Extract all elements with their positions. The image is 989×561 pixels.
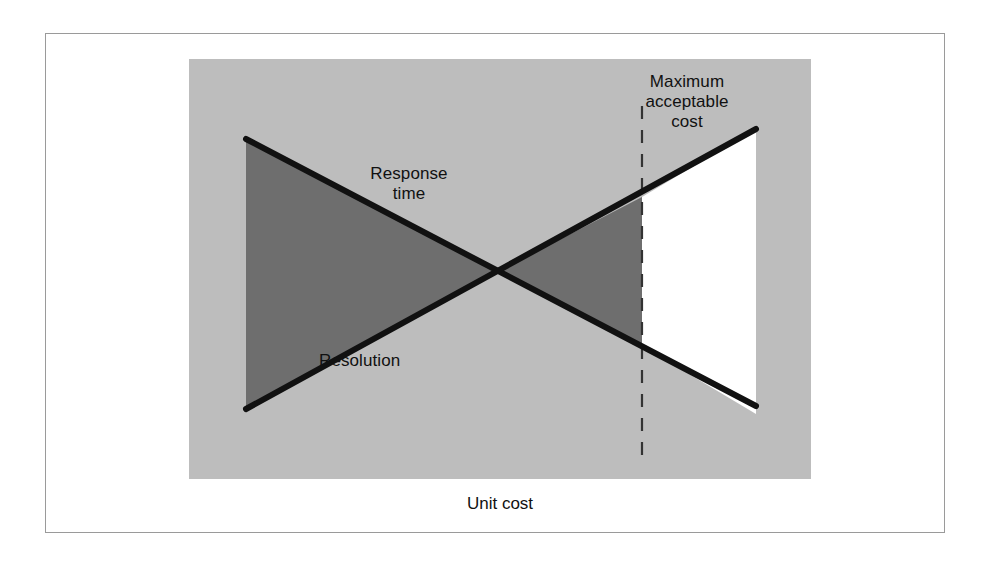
series-label-response-time: Response time (319, 164, 499, 204)
x-axis-label: Unit cost (189, 494, 811, 514)
annotation-maximum-acceptable-cost: Maximum acceptable cost (587, 72, 787, 132)
shaded-right-wedge (499, 197, 642, 346)
figure-frame: Maximum acceptable cost Response time Re… (45, 33, 945, 533)
excluded-white-region (642, 129, 756, 414)
plot-panel: Maximum acceptable cost Response time Re… (189, 59, 811, 479)
figure-root: Maximum acceptable cost Response time Re… (0, 0, 989, 561)
series-label-resolution: Resolution (319, 351, 499, 371)
